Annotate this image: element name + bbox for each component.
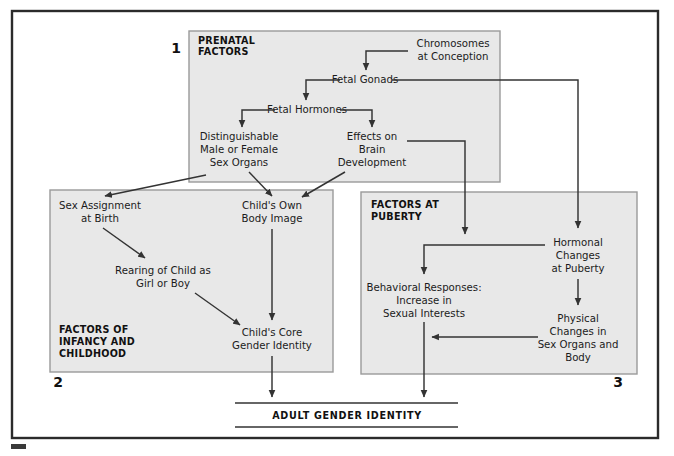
panel-1-number: 1: [171, 40, 181, 56]
node-sex-organs-line2: Male or Female: [200, 144, 278, 155]
node-physical-changes-line1: Physical: [557, 313, 598, 324]
node-brain-development-line2: Brain: [359, 144, 386, 155]
panel-3-number: 3: [613, 374, 623, 390]
panel-1-title-line2: FACTORS: [198, 46, 249, 57]
node-body-image-line1: Child's Own: [242, 200, 302, 211]
node-core-gender-line2: Gender Identity: [232, 340, 312, 351]
panel-2-title-line2: INFANCY AND: [59, 336, 135, 347]
panel-2-title-line1: FACTORS OF: [59, 324, 128, 335]
node-sex-organs-line3: Sex Organs: [210, 157, 268, 168]
panel-3-title-line2: PUBERTY: [371, 211, 423, 222]
node-physical-changes-line4: Body: [565, 352, 591, 363]
node-rearing-line1: Rearing of Child as: [115, 265, 211, 276]
panel-2-title-line3: CHILDHOOD: [59, 348, 126, 359]
node-chromosomes-line1: Chromosomes: [417, 38, 490, 49]
node-hormonal-changes-line1: Hormonal: [553, 237, 603, 248]
node-behavioral-line1: Behavioral Responses:: [366, 282, 481, 293]
node-fetal-gonads: Fetal Gonads: [332, 74, 398, 85]
panel-1-title-line1: PRENATAL: [198, 35, 255, 46]
node-hormonal-changes-line2: Changes: [556, 250, 600, 261]
node-rearing-line2: Girl or Boy: [136, 278, 190, 289]
node-physical-changes-line3: Sex Organs and: [538, 339, 619, 350]
node-hormonal-changes-line3: at Puberty: [552, 263, 605, 274]
adult-gender-identity-label: ADULT GENDER IDENTITY: [272, 410, 422, 421]
panel-3-title-line1: FACTORS AT: [371, 199, 439, 210]
node-physical-changes-line2: Changes in: [550, 326, 607, 337]
node-core-gender-line1: Child's Core: [242, 327, 303, 338]
node-sex-assignment-line1: Sex Assignment: [59, 200, 141, 211]
node-brain-development-line1: Effects on: [347, 131, 398, 142]
node-sex-assignment-line2: at Birth: [81, 213, 119, 224]
gender-identity-flow-diagram: PRENATAL FACTORS 1 Chromosomes at Concep…: [0, 0, 674, 456]
node-chromosomes-line2: at Conception: [417, 51, 488, 62]
node-body-image-line2: Body Image: [242, 213, 303, 224]
node-brain-development-line3: Development: [338, 157, 407, 168]
node-behavioral-line2: Increase in: [396, 295, 452, 306]
node-sex-organs-line1: Distinguishable: [200, 131, 279, 142]
corner-marker: [11, 444, 26, 449]
node-fetal-hormones: Fetal Hormones: [267, 104, 347, 115]
diagram-canvas: PRENATAL FACTORS 1 Chromosomes at Concep…: [0, 0, 674, 456]
panel-2-number: 2: [53, 374, 63, 390]
node-behavioral-line3: Sexual Interests: [383, 308, 465, 319]
